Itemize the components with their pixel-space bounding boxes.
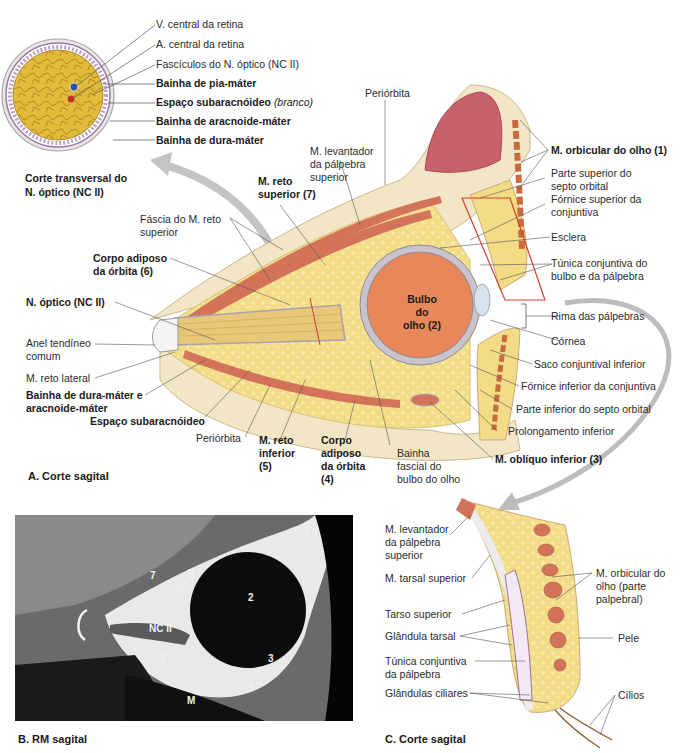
label-a-central-retina: A. central da retina: [156, 38, 244, 51]
label-saco-conjuntival: Saco conjuntival inferior: [534, 358, 645, 371]
mri-marker-s: S: [187, 568, 194, 579]
label-orbicular: M. orbicular do olho (1): [551, 144, 667, 157]
panel-b-caption: B. RM sagital: [18, 733, 87, 745]
mri-marker-5: 5: [160, 653, 166, 664]
label-reto-lateral: M. reto lateral: [26, 372, 90, 385]
mri-image-artwork: [15, 515, 353, 721]
mri-sagittal-image: 1 2 3 4 5 7 S NC II M: [15, 515, 353, 721]
mri-marker-2: 2: [248, 592, 254, 603]
mri-marker-1: 1: [304, 525, 310, 536]
label-reto-inferior: M. reto inferior (5): [259, 434, 295, 473]
label-tarsal-superior: M. tarsal superior: [385, 572, 466, 585]
cross-section-caption-2: N. óptico (NC II): [25, 186, 104, 199]
cross-section-caption-1: Corte transversal do: [25, 172, 127, 185]
label-n-optico: N. óptico (NC II): [26, 296, 105, 309]
label-pia-mater: Bainha de pia-máter: [156, 77, 256, 90]
label-orbicular-palpebral: M. orbicular do olho (parte palpebral): [596, 567, 665, 606]
eyelid-sagittal-section: [456, 498, 612, 748]
label-tarso-superior: Tarso superior: [385, 608, 452, 621]
panel-c-caption: C. Corte sagital: [385, 733, 466, 745]
label-tunica-conjuntiva-a: Túnica conjuntiva do bulbo e da pálpebra: [551, 257, 647, 283]
label-anel-tendineo: Anel tendíneo comum: [26, 337, 91, 363]
label-bainha-fascial: Bainha fascial do bulbo do olho: [397, 447, 460, 486]
label-espaco-subaracnoideo: Espaço subaracnóideo (branco): [156, 96, 313, 109]
label-septo-inferior: Parte inferior do septo orbital: [516, 403, 651, 416]
label-rima-palpebras: Rima das pálpebras: [551, 310, 644, 323]
label-fascia-reto-superior: Fáscia do M. reto superior: [140, 213, 221, 239]
label-septo-superior: Parte superior do septo orbital: [551, 167, 632, 193]
label-glandula-tarsal: Glândula tarsal: [385, 630, 456, 643]
label-fornice-inferior: Fórnice inferior da conjuntiva: [521, 380, 656, 393]
label-levantador-a: M. levantador da pálpebra superior: [310, 145, 374, 184]
mri-marker-4: 4: [248, 680, 254, 691]
label-glandulas-ciliares: Glândulas ciliares: [385, 687, 468, 700]
optic-nerve-cross-section: [2, 39, 114, 151]
label-bainha-dura-aracnoide: Bainha de dura-máter e aracnoide-máter: [26, 389, 143, 415]
label-periorbita-bottom: Periórbita: [196, 432, 241, 445]
mri-marker-m: M: [187, 695, 195, 706]
label-prolongamento: Prolongamento inferior: [508, 425, 614, 438]
label-cilios: Cílios: [618, 689, 644, 702]
label-corpo-adiposo-6: Corpo adiposo da órbita (6): [93, 252, 167, 278]
label-pele: Pele: [618, 632, 639, 645]
label-espaco-subaracnoideo-a: Espaço subaracnóideo: [90, 415, 205, 428]
label-periorbita-top: Periórbita: [365, 87, 410, 100]
label-v-central-retina: V. central da retina: [156, 18, 243, 31]
label-obliquo-inferior: M. oblíquo inferior (3): [495, 453, 602, 466]
mri-marker-3: 3: [268, 653, 274, 664]
label-dura-mater: Bainha de dura-máter: [156, 134, 264, 147]
label-tunica-conjuntiva-c: Túnica conjuntiva da pálpebra: [385, 655, 467, 681]
mri-marker-7: 7: [150, 570, 156, 581]
label-fornice-superior: Fórnice superior da conjuntiva: [551, 193, 641, 219]
label-reto-superior: M. reto superior (7): [258, 175, 316, 201]
label-levantador-c: M. levantador da pálpebra superior: [385, 523, 449, 562]
panel-a-caption: A. Corte sagital: [28, 470, 109, 482]
label-bulbo-olho: Bulbo do olho (2): [400, 293, 444, 332]
label-cornea: Córnea: [551, 335, 585, 348]
label-aracnoide-mater: Bainha de aracnoide-máter: [156, 115, 291, 128]
label-esclera: Esclera: [551, 231, 586, 244]
label-corpo-adiposo-4: Corpo adiposo da órbita (4): [321, 434, 365, 486]
mri-marker-nc-ii: NC II: [149, 623, 172, 634]
label-fasciculos: Fascículos do N. óptico (NC II): [156, 58, 299, 71]
